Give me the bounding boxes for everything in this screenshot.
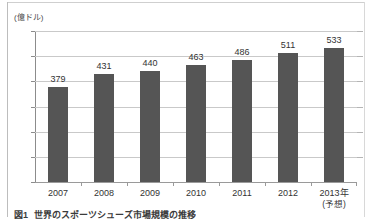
x-axis-label: 2009	[124, 188, 176, 199]
x-axis-label-main: 2010	[186, 188, 206, 198]
figure-caption: 図1世界のスポーツシューズ市場規模の推移	[14, 210, 196, 219]
y-axis-unit-label: (億ドル)	[14, 13, 43, 23]
y-tick-mark-right	[357, 56, 363, 57]
x-tick-mark	[356, 182, 357, 186]
x-tick-mark	[219, 182, 220, 186]
x-axis-label: 2007	[32, 188, 84, 199]
y-tick-mark	[31, 81, 35, 82]
y-tick-mark-right	[357, 107, 363, 108]
x-tick-mark	[173, 182, 174, 186]
x-axis-label: 2010	[170, 188, 222, 199]
y-tick-mark	[31, 107, 35, 108]
x-axis-label-main: 2011	[232, 188, 251, 198]
plot-area: 0100200300400500600379200743120084402009…	[35, 31, 357, 182]
y-tick-mark-right	[357, 81, 363, 82]
x-axis-label: 2008	[78, 188, 130, 199]
y-gridline	[35, 182, 357, 183]
figure-frame-top	[7, 2, 365, 3]
bar-value-label: 511	[268, 40, 308, 50]
x-axis-label-main: 2009	[140, 188, 160, 198]
x-axis-label-sub: (予想)	[308, 199, 360, 210]
y-tick-mark	[31, 31, 35, 32]
y-tick-mark-right	[357, 132, 363, 133]
y-tick-mark-right	[357, 157, 363, 158]
x-tick-mark	[81, 182, 82, 186]
bar[interactable]	[48, 87, 68, 182]
x-tick-mark	[311, 182, 312, 186]
x-axis-label: 2011	[216, 188, 268, 199]
bar-value-label: 533	[314, 35, 354, 45]
figure-caption-text: 世界のスポーツシューズ市場規模の推移	[34, 210, 196, 219]
y-tick-mark	[31, 182, 35, 183]
figure-frame-right	[364, 2, 365, 217]
bar-value-label: 463	[176, 52, 216, 62]
bar-value-label: 486	[222, 47, 262, 57]
bar-value-label: 440	[130, 58, 170, 68]
bar-value-label: 379	[38, 74, 78, 84]
y-gridline	[35, 31, 357, 32]
figure-number: 図1	[14, 210, 28, 219]
y-tick-mark	[31, 157, 35, 158]
y-tick-mark-right	[357, 31, 363, 32]
bar[interactable]	[140, 71, 160, 182]
y-tick-mark	[31, 56, 35, 57]
bar[interactable]	[278, 53, 298, 182]
bar[interactable]	[324, 48, 344, 182]
figure-frame-left	[7, 2, 8, 217]
x-axis-label-main: 2013年	[319, 188, 348, 198]
bar[interactable]	[94, 74, 114, 182]
x-axis-label-main: 2007	[48, 188, 68, 198]
figure-container: (億ドル) 0100200300400500600379200743120084…	[0, 0, 370, 219]
x-tick-mark	[127, 182, 128, 186]
x-axis-label-main: 2012	[278, 188, 298, 198]
bar-value-label: 431	[84, 61, 124, 71]
x-axis-label: 2012	[262, 188, 314, 199]
bar[interactable]	[186, 65, 206, 182]
x-tick-mark	[265, 182, 266, 186]
x-axis-label-main: 2008	[94, 188, 114, 198]
x-axis-label: 2013年(予想)	[308, 188, 360, 210]
bar[interactable]	[232, 60, 252, 182]
y-tick-mark	[31, 132, 35, 133]
